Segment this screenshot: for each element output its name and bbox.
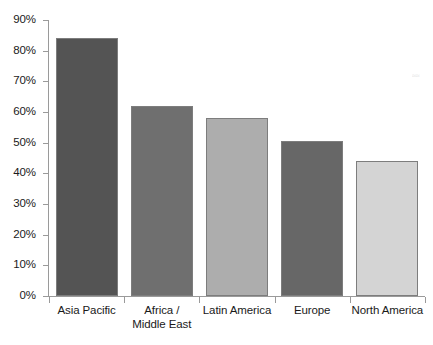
y-axis-tick-label: 70% <box>13 76 36 88</box>
x-axis-category-label: North America <box>342 303 433 317</box>
x-axis-tick-mark <box>275 297 276 303</box>
y-axis-tick-mark <box>43 173 49 174</box>
x-axis-category-label-line: North America <box>352 304 424 316</box>
y-axis-tick-mark <box>43 51 49 52</box>
x-axis-tick-mark <box>425 297 426 303</box>
y-axis-tick-label: 10% <box>13 260 36 272</box>
scan-artifact: ≈≈ <box>412 74 426 92</box>
y-axis-tick-label: 60% <box>13 106 36 118</box>
x-axis-category-label-line: Latin America <box>203 304 271 316</box>
x-axis-category-label-line: Africa / <box>144 304 179 316</box>
y-axis-tick-labels: 0%10%20%30%40%50%60%70%80%90% <box>0 0 41 345</box>
bar <box>131 106 193 296</box>
y-axis-tick-mark <box>43 81 49 82</box>
x-axis-category-label-line: Middle East <box>116 317 207 331</box>
x-axis-category-labels: Asia PacificAfrica /Middle EastLatin Ame… <box>49 303 425 345</box>
x-axis-category-label-line: Asia Pacific <box>57 304 115 316</box>
bar <box>281 141 343 296</box>
y-axis-tick-mark <box>43 235 49 236</box>
y-axis-tick-mark <box>43 20 49 21</box>
y-axis-tick-label: 50% <box>13 137 36 149</box>
y-axis-tick-label: 80% <box>13 45 36 57</box>
bar <box>356 161 418 296</box>
x-axis-tick-mark <box>124 297 125 303</box>
y-axis-tick-label: 90% <box>13 14 36 26</box>
y-axis-tick-label: 0% <box>20 290 36 302</box>
y-axis-tick-label: 40% <box>13 168 36 180</box>
y-axis-tick-mark <box>43 143 49 144</box>
y-axis-tick-mark <box>43 265 49 266</box>
x-axis-tick-mark <box>199 297 200 303</box>
y-axis-tick-mark <box>43 204 49 205</box>
bar <box>56 38 118 296</box>
x-axis-tick-mark <box>49 297 50 303</box>
y-axis-tick-label: 20% <box>13 229 36 241</box>
plot-area <box>49 20 425 296</box>
x-axis-line <box>48 296 425 297</box>
y-axis-tick-label: 30% <box>13 198 36 210</box>
x-axis-category-label-line: Europe <box>294 304 330 316</box>
bar <box>206 118 268 296</box>
x-axis-tick-mark <box>350 297 351 303</box>
y-axis-tick-mark <box>43 112 49 113</box>
bar-chart: 0%10%20%30%40%50%60%70%80%90% Asia Pacif… <box>0 0 433 345</box>
